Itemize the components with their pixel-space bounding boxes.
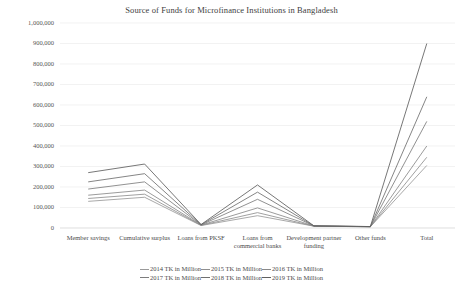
legend-line-swatch-icon <box>140 269 149 270</box>
legend-row: 2014 TK in Million2015 TK in Million2016… <box>0 265 463 274</box>
y-axis-tick-label: 700,000 <box>0 81 54 88</box>
x-axis-tick-label: Member savings <box>57 234 119 242</box>
y-axis-tick-label: 900,000 <box>0 40 54 47</box>
legend-line-swatch-icon <box>201 269 210 270</box>
chart-legend: 2014 TK in Million2015 TK in Million2016… <box>0 265 463 283</box>
y-axis-tick-label: 300,000 <box>0 163 54 170</box>
x-axis-tick-label: Total <box>396 234 458 242</box>
legend-line-swatch-icon <box>262 269 271 270</box>
legend-line-swatch-icon <box>140 277 149 278</box>
legend-label: 2016 TK in Million <box>272 265 323 272</box>
y-axis-tick-label: 200,000 <box>0 184 54 191</box>
x-axis-tick-label: Cumulative surplus <box>114 234 176 242</box>
legend-label: 2015 TK in Million <box>211 265 262 272</box>
legend-line-swatch-icon <box>262 277 271 278</box>
y-axis-tick-label: 0 <box>0 225 54 232</box>
chart-container: Source of Funds for Microfinance Institu… <box>0 0 463 295</box>
chart-plot-area <box>0 0 463 295</box>
y-axis-tick-label: 500,000 <box>0 122 54 129</box>
series-lines <box>88 44 427 227</box>
x-axis-tick-label: Other funds <box>339 234 401 242</box>
legend-label: 2018 TK in Million <box>211 274 262 281</box>
legend-item[interactable]: 2018 TK in Million <box>201 274 262 283</box>
legend-item[interactable]: 2014 TK in Million <box>140 265 201 274</box>
x-axis-tick-label: Loans from commercial banks <box>227 234 289 249</box>
y-axis-tick-label: 400,000 <box>0 143 54 150</box>
x-axis-tick-label: Loans from PKSF <box>170 234 232 242</box>
legend-row: 2017 TK in Million2018 TK in Million2019… <box>0 274 463 283</box>
legend-label: 2017 TK in Million <box>150 274 201 281</box>
gridlines <box>60 23 455 228</box>
y-axis-tick-label: 100,000 <box>0 204 54 211</box>
legend-label: 2019 TK in Million <box>272 274 323 281</box>
legend-line-swatch-icon <box>201 277 210 278</box>
legend-item[interactable]: 2019 TK in Million <box>262 274 323 283</box>
y-axis-tick-label: 800,000 <box>0 61 54 68</box>
legend-item[interactable]: 2017 TK in Million <box>140 274 201 283</box>
legend-label: 2014 TK in Million <box>150 265 201 272</box>
legend-item[interactable]: 2015 TK in Million <box>201 265 262 274</box>
y-axis-tick-label: 600,000 <box>0 102 54 109</box>
x-axis-tick-label: Development partner funding <box>283 234 345 249</box>
y-axis-tick-label: 1,000,000 <box>0 20 54 27</box>
legend-item[interactable]: 2016 TK in Million <box>262 265 323 274</box>
series-line-2017 <box>88 121 427 226</box>
